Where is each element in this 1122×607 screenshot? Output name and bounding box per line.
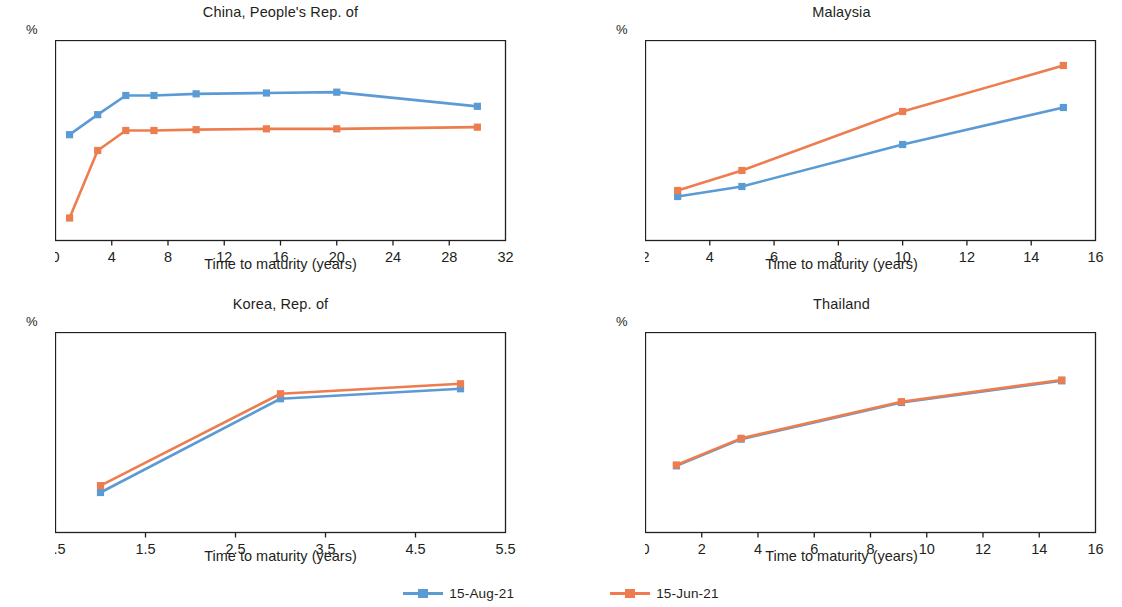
chart-title: Malaysia xyxy=(561,4,1122,20)
data-point-marker xyxy=(1060,62,1067,69)
data-point-marker xyxy=(474,103,481,110)
chart-title: China, People's Rep. of xyxy=(0,4,561,20)
data-point-marker xyxy=(674,187,681,194)
x-axis-title: Time to maturity (years) xyxy=(561,548,1122,564)
data-point-marker xyxy=(263,89,270,96)
x-axis-title: Time to maturity (years) xyxy=(0,548,561,564)
legend-label: 15-Aug-21 xyxy=(449,586,514,601)
chart-panel-korea: Korea, Rep. of % 1.52.33.13.94.70.51.52.… xyxy=(0,292,561,584)
data-point-marker xyxy=(66,214,73,221)
series-line xyxy=(678,108,1064,197)
data-point-marker xyxy=(122,127,129,134)
data-point-marker xyxy=(193,126,200,133)
plot-frame xyxy=(56,41,506,241)
legend: 15-Aug-21 15-Jun-21 xyxy=(0,586,1122,601)
data-point-marker xyxy=(94,147,101,154)
y-axis-unit-label: % xyxy=(26,22,38,37)
data-point-marker xyxy=(333,89,340,96)
data-point-marker xyxy=(150,92,157,99)
y-axis-unit-label: % xyxy=(616,314,628,329)
plot-svg: 2.53.03.54.04.5246810121416 xyxy=(645,40,1122,284)
chart-title: Thailand xyxy=(561,296,1122,312)
chart-panel-malaysia: Malaysia % 2.53.03.54.04.5246810121416 T… xyxy=(561,0,1122,292)
data-point-marker xyxy=(97,482,104,489)
data-point-marker xyxy=(66,131,73,138)
series-line xyxy=(676,381,1061,466)
data-point-marker xyxy=(738,167,745,174)
series-line xyxy=(678,66,1064,191)
series-line xyxy=(676,380,1061,465)
series-line xyxy=(70,127,478,218)
data-point-marker xyxy=(122,92,129,99)
chart-panel-thailand: Thailand % 2.32.62.93.23.50246810121416 … xyxy=(561,292,1122,584)
plot-frame xyxy=(646,333,1096,533)
chart-panel-china: China, People's Rep. of % 10.811.412.012… xyxy=(0,0,561,292)
plot-area: 2.53.03.54.04.5246810121416 xyxy=(645,40,1122,284)
data-point-marker xyxy=(673,461,680,468)
plot-svg: 1.52.33.13.94.70.51.52.53.54.55.5 xyxy=(55,332,565,576)
legend-item[interactable]: 15-Aug-21 xyxy=(403,586,514,601)
data-point-marker xyxy=(474,124,481,131)
plot-area: 1.52.33.13.94.70.51.52.53.54.55.5 xyxy=(55,332,565,576)
data-point-marker xyxy=(1058,376,1065,383)
plot-svg: 10.811.412.012.613.2048121620242832 xyxy=(55,40,565,284)
data-point-marker xyxy=(899,141,906,148)
chart-grid: China, People's Rep. of % 10.811.412.012… xyxy=(0,0,1122,607)
plot-frame xyxy=(646,41,1096,241)
legend-marker-icon xyxy=(610,588,650,599)
data-point-marker xyxy=(457,380,464,387)
data-point-marker xyxy=(333,125,340,132)
plot-area: 10.811.412.012.613.2048121620242832 xyxy=(55,40,565,284)
legend-label: 15-Jun-21 xyxy=(656,586,719,601)
data-point-marker xyxy=(738,183,745,190)
y-axis-unit-label: % xyxy=(616,22,628,37)
data-point-marker xyxy=(150,127,157,134)
plot-frame xyxy=(56,333,506,533)
data-point-marker xyxy=(738,435,745,442)
plot-svg: 2.32.62.93.23.50246810121416 xyxy=(645,332,1122,576)
data-point-marker xyxy=(263,125,270,132)
x-axis-title: Time to maturity (years) xyxy=(561,256,1122,272)
legend-marker-icon xyxy=(403,588,443,599)
data-point-marker xyxy=(899,108,906,115)
data-point-marker xyxy=(94,111,101,118)
data-point-marker xyxy=(1060,104,1067,111)
data-point-marker xyxy=(277,390,284,397)
data-point-marker xyxy=(898,398,905,405)
chart-title: Korea, Rep. of xyxy=(0,296,561,312)
legend-item[interactable]: 15-Jun-21 xyxy=(610,586,719,601)
plot-area: 2.32.62.93.23.50246810121416 xyxy=(645,332,1122,576)
x-axis-title: Time to maturity (years) xyxy=(0,256,561,272)
data-point-marker xyxy=(97,489,104,496)
series-line xyxy=(101,389,461,493)
data-point-marker xyxy=(193,90,200,97)
y-axis-unit-label: % xyxy=(26,314,38,329)
